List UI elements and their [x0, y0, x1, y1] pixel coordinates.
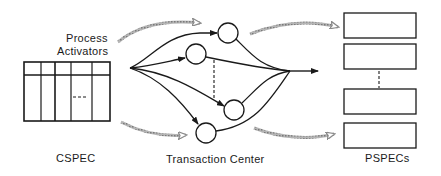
process-node-2 [186, 44, 206, 64]
flow-arrow-cspec-to-center-bottom [121, 122, 186, 135]
path-to-node-4 [130, 68, 198, 124]
path-from-node-1 [236, 39, 290, 71]
pspecs-stack [344, 13, 416, 148]
process-node-3 [224, 100, 244, 120]
process-activators-label-line2: Activators [57, 45, 108, 57]
flow-arrow-center-to-pspecs-top [250, 23, 338, 34]
flow-arrow-center-to-pspecs-bottom [254, 128, 334, 137]
process-node-1 [218, 23, 238, 43]
pspecs-label: PSPECs [365, 152, 410, 164]
pspec-box-4 [344, 123, 416, 148]
cspec-label: CSPEC [56, 152, 95, 164]
cspec-table [24, 62, 110, 121]
path-from-node-3 [242, 71, 290, 103]
transaction-center-diagram: Process Activators CSPEC Transaction Cen… [0, 0, 441, 176]
process-activators-label-line1: Process [66, 32, 108, 44]
process-node-4 [196, 123, 216, 143]
diagram-canvas [0, 0, 441, 176]
path-from-node-4 [216, 71, 290, 131]
cspec-table-border [24, 62, 110, 121]
flow-arrow-cspec-to-center-top [118, 22, 200, 42]
transaction-center [130, 23, 318, 143]
transaction-center-label: Transaction Center [166, 153, 265, 165]
pspec-box-2 [344, 44, 416, 69]
pspec-box-1 [344, 13, 416, 38]
pspec-box-3 [344, 89, 416, 114]
